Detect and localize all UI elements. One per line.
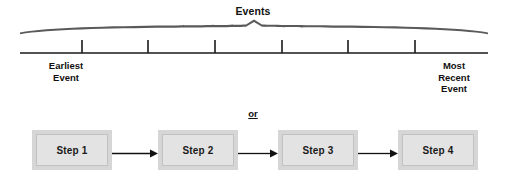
most-recent-event-label: Most Recent Event [408,60,500,95]
step-box-1: Step 1 [32,130,112,170]
events-bracket-label: Events [0,5,506,17]
step-arrow-2 [238,149,278,158]
steps-flow-diagram: Step 1 Step 2 Step 3 Step 4 [0,130,506,176]
step-box-1-label: Step 1 [36,134,108,166]
or-separator: or [0,108,506,119]
timeline-axis [18,36,490,56]
timeline-diagram: Events Earliest Event Most Recent Event [0,0,506,104]
step-box-2-label: Step 2 [162,134,234,166]
earliest-event-label-line1: Earliest [20,60,112,72]
step-box-4-label: Step 4 [402,134,474,166]
events-curly-brace [18,19,490,35]
earliest-event-label-line2: Event [20,72,112,84]
most-recent-event-label-line1: Most [408,60,500,72]
or-separator-text: or [248,108,258,119]
step-box-2: Step 2 [158,130,238,170]
earliest-event-label: Earliest Event [20,60,112,83]
most-recent-event-label-line2: Recent [408,72,500,84]
step-box-4: Step 4 [398,130,478,170]
step-box-3: Step 3 [278,130,358,170]
most-recent-event-label-line3: Event [408,83,500,95]
step-arrow-1 [112,149,158,158]
step-box-3-label: Step 3 [282,134,354,166]
step-arrow-3 [358,149,398,158]
